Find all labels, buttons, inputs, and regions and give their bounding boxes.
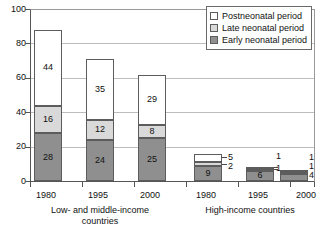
bar-segment-postneonatal[interactable] (194, 154, 222, 163)
bar-hic-1995[interactable]: 6 (246, 167, 274, 181)
legend-item-early-neonatal[interactable]: Early neonatal period (210, 34, 307, 46)
chart-container: 100 80 60 40 20 0 44 16 28 35 (0, 0, 322, 227)
bar-hic-1980[interactable]: 9 (194, 154, 222, 181)
x-tick-label-hic-2000: 2000 (286, 190, 322, 200)
x-tick-mark-0 (30, 182, 31, 187)
bar-segment-early-neonatal[interactable] (280, 174, 308, 181)
legend-swatch-early-neonatal-icon (210, 36, 218, 44)
bar-value-label: 6 (257, 171, 262, 180)
x-tick-mark-4 (238, 182, 239, 187)
bar-value-label: 9 (205, 169, 210, 178)
gridline-60 (31, 78, 314, 79)
x-tick-mark-6 (314, 182, 315, 187)
y-tick-label-0: 0 (0, 177, 26, 186)
bar-lmic-1995[interactable]: 35 12 24 (86, 59, 114, 181)
bar-value-label: 24 (95, 156, 105, 165)
bar-lmic-1980[interactable]: 44 16 28 (34, 30, 62, 181)
legend-item-late-neonatal[interactable]: Late neonatal period (210, 22, 307, 34)
legend-item-postneonatal[interactable]: Postneonatal period (210, 10, 307, 22)
bar-segment-late-neonatal[interactable]: 12 (86, 120, 114, 141)
legend-label-early-neonatal: Early neonatal period (222, 36, 307, 45)
y-tick-label-20: 20 (0, 142, 26, 151)
leader-line-hic-1980-late (222, 164, 227, 165)
bar-value-label: 28 (43, 153, 53, 162)
bar-value-label-hic-1995-post: 1 (276, 152, 281, 161)
x-tick-mark-3 (186, 182, 187, 187)
bar-value-label: 44 (43, 63, 53, 72)
bar-segment-postneonatal[interactable]: 44 (34, 30, 62, 106)
y-tick-label-100: 100 (0, 5, 26, 14)
bar-segment-late-neonatal[interactable]: 16 (34, 106, 62, 134)
x-tick-label-hic-1995: 1995 (238, 190, 278, 200)
group-caption-low-middle-income-line2: countries (20, 216, 180, 227)
bar-value-label: 29 (147, 95, 157, 104)
x-tick-label-hic-1980: 1980 (186, 190, 226, 200)
legend-label-late-neonatal: Late neonatal period (222, 24, 304, 33)
bar-segment-early-neonatal[interactable]: 24 (86, 140, 114, 181)
bar-hic-2000[interactable] (280, 171, 308, 181)
bar-value-label-hic-1980-late: 2 (228, 162, 233, 171)
group-caption-low-middle-income-line1: Low- and middle-income (20, 205, 180, 216)
bar-segment-postneonatal[interactable]: 35 (86, 59, 114, 120)
bar-segment-early-neonatal[interactable]: 6 (246, 171, 274, 181)
bar-lmic-2000[interactable]: 29 8 25 (138, 75, 166, 181)
y-tick-label-80: 80 (0, 39, 26, 48)
bar-value-label: 8 (149, 127, 154, 136)
legend-swatch-postneonatal-icon (210, 12, 218, 20)
x-tick-label-lmic-2000: 2000 (130, 190, 170, 200)
legend-label-postneonatal: Postneonatal period (222, 12, 302, 21)
bar-value-label: 12 (95, 125, 105, 134)
y-tick-label-40: 40 (0, 108, 26, 117)
gridline-20 (31, 147, 314, 148)
legend-swatch-late-neonatal-icon (210, 24, 218, 32)
x-tick-label-lmic-1980: 1980 (26, 190, 66, 200)
x-tick-mark-5 (290, 182, 291, 187)
bar-value-label: 25 (147, 155, 157, 164)
gridline-40 (31, 112, 314, 113)
x-tick-mark-2 (134, 182, 135, 187)
x-tick-label-lmic-1995: 1995 (78, 190, 118, 200)
y-tick-label-60: 60 (0, 73, 26, 82)
legend: Postneonatal period Late neonatal period… (206, 6, 312, 50)
group-caption-high-income: High-income countries (180, 205, 320, 216)
bar-value-label: 16 (43, 115, 53, 124)
bar-segment-late-neonatal[interactable]: 8 (138, 125, 166, 139)
leader-line-hic-1980-post (222, 157, 227, 158)
bar-segment-postneonatal[interactable]: 29 (138, 75, 166, 125)
bar-segment-early-neonatal[interactable]: 25 (138, 138, 166, 181)
bar-segment-early-neonatal[interactable]: 28 (34, 133, 62, 181)
bar-value-label: 35 (95, 85, 105, 94)
bar-segment-early-neonatal[interactable]: 9 (194, 166, 222, 181)
x-tick-mark-1 (82, 182, 83, 187)
bar-value-label-hic-2000-early: 4 (309, 171, 314, 180)
